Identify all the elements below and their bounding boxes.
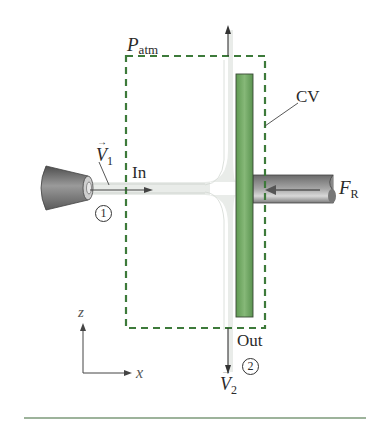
jet-plate-diagram (0, 0, 387, 428)
station-1-marker: 1 (95, 204, 112, 222)
outlet-label: Out (237, 332, 263, 349)
v1-symbol: V (96, 146, 107, 164)
station-2-marker: 2 (242, 357, 259, 375)
v2-subscript: 2 (231, 383, 237, 397)
inlet-label: In (132, 164, 146, 181)
v1-subscript: 1 (107, 154, 113, 168)
v1-label: V1 (96, 146, 113, 164)
x-axis-label: x (136, 365, 143, 381)
station-2-number: 2 (242, 358, 259, 375)
horizontal-jet (90, 30, 236, 372)
coordinate-axes (80, 323, 132, 376)
nozzle (41, 166, 93, 210)
plate (236, 74, 253, 317)
reaction-force-label: FR (339, 178, 359, 197)
station-1-number: 1 (95, 205, 112, 222)
p-atm-label: Patm (127, 35, 158, 54)
cv-leader-line (265, 103, 298, 126)
force-subscript: R (351, 187, 359, 201)
cv-label: CV (296, 88, 320, 105)
z-axis-label: z (78, 305, 84, 320)
force-symbol: F (339, 177, 351, 198)
p-atm-symbol: P (127, 34, 139, 55)
v2-symbol: V (220, 375, 231, 393)
p-atm-subscript: atm (139, 42, 159, 57)
v2-label: V2 (220, 375, 237, 393)
